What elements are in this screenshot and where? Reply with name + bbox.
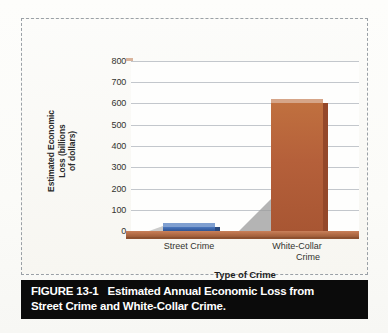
bar-white-collar-crime-face	[271, 103, 323, 231]
y-tick-100: 100	[98, 205, 126, 215]
bar-chart: Estimated Economic Loss (billions of dol…	[52, 47, 382, 287]
axis-floor-edge	[126, 237, 359, 239]
x-tick-white-collar-crime-line-2: Crime	[245, 252, 349, 263]
page-background: Estimated Economic Loss (billions of dol…	[0, 0, 388, 333]
x-axis-title: Type of Crime	[131, 269, 359, 280]
y-tick-400: 400	[98, 141, 126, 151]
y-axis-title-line-2: Loss (billions	[57, 81, 68, 221]
y-tick-300: 300	[98, 162, 126, 172]
figure-frame: Estimated Economic Loss (billions of dol…	[21, 18, 368, 275]
figure-number: FIGURE 13-1	[31, 285, 98, 297]
x-tick-white-collar-crime-line-1: White-Collar	[272, 241, 322, 251]
x-tick-white-collar-crime: White-Collar Crime	[245, 241, 349, 263]
y-tick-0: 0	[98, 226, 126, 236]
plot-area	[131, 61, 359, 231]
y-axis-title-line-3: of dollars)	[67, 81, 78, 221]
x-tick-street-crime-line-1: Street Crime	[164, 241, 215, 251]
bar-white-collar-crime-side	[323, 103, 328, 231]
figure-caption-line-1: FIGURE 13-1Estimated Annual Economic Los…	[31, 284, 360, 299]
gridline-700	[131, 82, 359, 83]
figure-caption-line-2: Street Crime and White-Collar Crime.	[31, 299, 360, 314]
y-tick-800: 800	[98, 56, 126, 66]
y-axis-title-line-1: Estimated Economic	[46, 81, 57, 221]
y-tick-500: 500	[98, 120, 126, 130]
y-tick-700: 700	[98, 77, 126, 87]
y-tick-200: 200	[98, 184, 126, 194]
figure-caption: FIGURE 13-1Estimated Annual Economic Los…	[21, 280, 368, 319]
bar-white-collar-crime[interactable]	[271, 103, 323, 231]
figure-caption-text-1: Estimated Annual Economic Loss from	[107, 285, 314, 297]
y-tick-600: 600	[98, 98, 126, 108]
gridline-800	[131, 61, 359, 62]
y-axis-title: Estimated Economic Loss (billions of dol…	[46, 81, 86, 221]
x-tick-street-crime: Street Crime	[137, 241, 241, 252]
bar-shadow-white-collar-crime	[239, 199, 271, 231]
y-axis-tick-labels: 800 700 600 500 400 300 200 100 0	[98, 61, 126, 231]
